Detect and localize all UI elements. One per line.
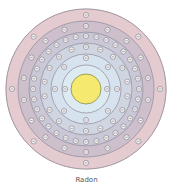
bohr-model-diagram bbox=[0, 0, 173, 183]
nucleus bbox=[71, 74, 101, 104]
element-caption: Radon bbox=[0, 176, 173, 183]
